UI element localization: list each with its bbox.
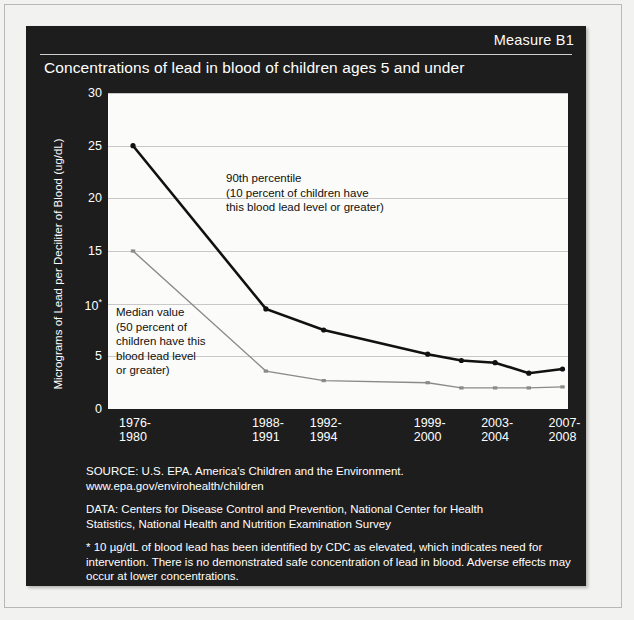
annotation-90th-line3: this blood lead level or greater) xyxy=(226,201,384,213)
y-tick-label: 20 xyxy=(56,192,102,205)
data-line-1: DATA: Centers for Disease Control and Pr… xyxy=(86,503,483,515)
data-point xyxy=(560,385,564,388)
data-point xyxy=(425,352,430,357)
header-divider xyxy=(40,54,572,55)
y-tick-label: 30 xyxy=(56,87,102,100)
data-point xyxy=(560,366,565,371)
source-block: SOURCE: U.S. EPA. America's Children and… xyxy=(86,464,578,493)
x-tick-line-1: 1988- xyxy=(252,416,284,430)
annotation-90th-percentile: 90th percentile (10 percent of children … xyxy=(226,171,384,215)
data-point xyxy=(263,306,268,311)
footer-notes: SOURCE: U.S. EPA. America's Children and… xyxy=(86,464,578,584)
y-tick-asterisk: * xyxy=(98,297,102,307)
annotation-median-line3: children have this xyxy=(116,335,206,347)
data-point xyxy=(131,249,135,252)
y-tick-label: 0 xyxy=(56,403,102,416)
data-point xyxy=(426,381,430,384)
y-tick-label: 15 xyxy=(56,245,102,258)
annotation-median-line4: blood lead level xyxy=(116,350,196,362)
data-point xyxy=(526,371,531,376)
x-tick-line-2: 2004 xyxy=(481,430,513,444)
x-tick-label: 2007-2008 xyxy=(549,416,581,444)
x-tick-line-1: 1999- xyxy=(414,416,446,430)
x-tick-line-2: 1994 xyxy=(310,430,342,444)
x-axis-ticks: 1976-19801988-19911992-19941999-20002003… xyxy=(108,416,578,456)
measure-panel: Measure B1 Concentrations of lead in blo… xyxy=(26,26,586,586)
data-point xyxy=(527,386,531,389)
data-point xyxy=(264,370,268,373)
x-tick-label: 2003-2004 xyxy=(481,416,513,444)
data-point xyxy=(459,386,463,389)
x-tick-line-2: 2008 xyxy=(549,430,581,444)
plot-wrapper: 90th percentile (10 percent of children … xyxy=(108,93,568,409)
page-title: Concentrations of lead in blood of child… xyxy=(44,59,576,77)
y-tick-label: 25 xyxy=(56,140,102,153)
y-tick-label: 10* xyxy=(56,298,102,313)
data-point xyxy=(321,327,326,332)
annotation-median-line5: or greater) xyxy=(116,364,170,376)
x-tick-line-1: 2003- xyxy=(481,416,513,430)
x-tick-label: 1976-1980 xyxy=(119,416,151,444)
annotation-90th-line2: (10 percent of children have xyxy=(226,187,369,199)
data-point xyxy=(130,143,135,148)
data-point xyxy=(322,379,326,382)
x-tick-line-2: 1991 xyxy=(252,430,284,444)
source-line: SOURCE: U.S. EPA. America's Children and… xyxy=(86,465,404,477)
x-tick-line-2: 1980 xyxy=(119,430,151,444)
y-axis-ticks: 3025201510*50 xyxy=(56,93,102,409)
data-point xyxy=(459,358,464,363)
source-url: www.epa.gov/envirohealth/children xyxy=(86,480,264,492)
data-line-2: Statistics, National Health and Nutritio… xyxy=(86,518,391,530)
plot-area: 90th percentile (10 percent of children … xyxy=(108,93,568,409)
data-block: DATA: Centers for Disease Control and Pr… xyxy=(86,502,578,531)
x-tick-label: 1992-1994 xyxy=(310,416,342,444)
measure-tag: Measure B1 xyxy=(494,32,574,48)
annotation-90th-line1: 90th percentile xyxy=(226,172,301,184)
annotation-median-line1: Median value xyxy=(116,306,184,318)
screenshot-page: Measure B1 Concentrations of lead in blo… xyxy=(0,0,634,620)
x-tick-line-1: 2007- xyxy=(549,416,581,430)
annotation-median-line2: (50 percent of xyxy=(116,321,187,333)
footnote-block: * 10 µg/dL of blood lead has been identi… xyxy=(86,540,578,584)
data-point xyxy=(493,360,498,365)
x-tick-line-1: 1976- xyxy=(119,416,151,430)
x-tick-line-2: 2000 xyxy=(414,430,446,444)
x-tick-line-1: 1992- xyxy=(310,416,342,430)
y-tick-label: 5 xyxy=(56,350,102,363)
x-tick-label: 1988-1991 xyxy=(252,416,284,444)
annotation-median-value: Median value (50 percent of children hav… xyxy=(116,305,206,378)
x-tick-label: 1999-2000 xyxy=(414,416,446,444)
data-point xyxy=(493,386,497,389)
